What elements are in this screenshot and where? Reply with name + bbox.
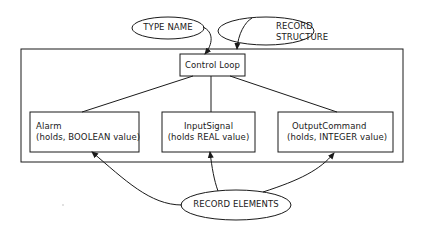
record-elements-arrow-alarm — [92, 152, 182, 205]
element-detail: (holds, BOOLEAN value) — [36, 132, 140, 143]
record-structure-label: RECORD STRUCTURE — [276, 21, 328, 43]
element-detail: (holds, INTEGER value) — [287, 132, 387, 143]
element-alarm: Alarm (holds, BOOLEAN value) — [36, 121, 140, 143]
record-elements-arrow-input-signal — [210, 152, 218, 191]
element-name: OutputCommand — [287, 121, 387, 132]
element-output-command: OutputCommand (holds, INTEGER value) — [287, 121, 387, 143]
element-input-signal: InputSignal (holds REAL value) — [162, 121, 255, 143]
record-structure-line1: RECORD — [276, 21, 328, 32]
scan-speck — [62, 204, 64, 206]
control-loop-label: Control Loop — [180, 60, 245, 71]
connector-output-command — [230, 76, 337, 112]
connector-alarm — [82, 76, 193, 112]
element-name: Alarm — [36, 121, 140, 132]
type-name-arrow — [203, 27, 211, 54]
element-detail: (holds REAL value) — [162, 132, 255, 143]
record-elements-label: RECORD ELEMENTS — [181, 199, 291, 210]
record-structure-line2: STRUCTURE — [276, 32, 328, 43]
type-name-label: TYPE NAME — [132, 22, 204, 33]
element-name: InputSignal — [162, 121, 255, 132]
record-elements-arrow-output-command — [263, 153, 334, 192]
